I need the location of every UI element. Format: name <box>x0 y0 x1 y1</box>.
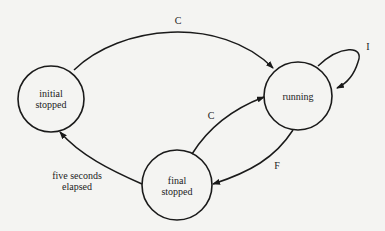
state-running-label: running <box>270 91 326 102</box>
transition-initial-to-running <box>74 32 273 70</box>
state-initial-label-line1: initial <box>25 88 77 99</box>
transition-running-to-final <box>213 130 293 184</box>
state-diagram: initial stopped running final stopped C … <box>0 0 385 231</box>
transition-label-five-seconds: five seconds elapsed <box>42 170 112 192</box>
state-final-label: final stopped <box>150 175 204 197</box>
transition-label-five-seconds-line2: elapsed <box>42 181 112 192</box>
state-initial-label: initial stopped <box>25 88 77 110</box>
transition-final-to-running <box>192 97 264 154</box>
state-final-label-line2: stopped <box>150 186 204 197</box>
transition-label-c-top: C <box>172 15 184 26</box>
transition-label-five-seconds-line1: five seconds <box>42 170 112 181</box>
transition-label-c-middle: C <box>205 110 217 121</box>
transition-label-f: F <box>272 160 282 171</box>
state-running-label-line1: running <box>270 91 326 102</box>
state-initial-label-line2: stopped <box>25 99 77 110</box>
state-final-label-line1: final <box>150 175 204 186</box>
transition-running-self-loop <box>318 50 359 88</box>
transition-label-i: I <box>363 41 373 52</box>
